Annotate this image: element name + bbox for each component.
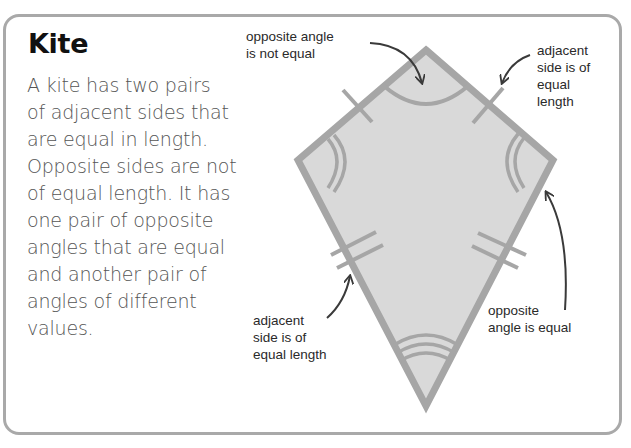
arrow-top-right	[502, 55, 530, 83]
arrow-bottom-right	[546, 192, 566, 310]
label-opposite-angle-equal: opposite angle is equal	[488, 302, 571, 336]
label-opposite-angle-not-equal: opposite angle is not equal	[246, 28, 334, 62]
arrow-bottom-left	[327, 276, 350, 318]
label-adjacent-side-top: adjacent side is of equal length	[537, 42, 590, 110]
label-adjacent-side-bottom: adjacent side is of equal length	[253, 312, 327, 363]
